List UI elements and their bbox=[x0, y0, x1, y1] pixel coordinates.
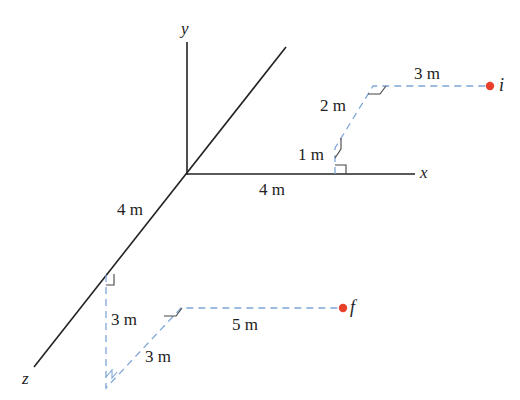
dim-label-3m-y: 3 m bbox=[111, 310, 137, 329]
corner-mark-y-neg-z bbox=[106, 370, 117, 378]
displacement-diagram: y x z i f 4 m 1 m 2 m 3 m 4 m 3 m 3 m 5 … bbox=[0, 0, 520, 400]
initial-point-path bbox=[335, 86, 490, 174]
initial-point-dot bbox=[486, 82, 494, 90]
axes bbox=[34, 42, 415, 367]
x-axis-label: x bbox=[419, 163, 428, 182]
dim-label-5m-x: 5 m bbox=[232, 315, 258, 334]
right-angle-mark-x bbox=[335, 165, 346, 174]
final-point-path bbox=[106, 274, 343, 388]
y-axis-label: y bbox=[179, 19, 189, 38]
corner-mark-y-z bbox=[335, 138, 341, 158]
corner-mark-z-x bbox=[368, 86, 386, 94]
dim-label-1m-y: 1 m bbox=[298, 145, 324, 164]
corner-mark-z-y bbox=[106, 274, 114, 285]
path-to-i bbox=[335, 86, 490, 174]
z-axis-label: z bbox=[21, 369, 29, 388]
final-point-dot bbox=[339, 304, 347, 312]
dim-label-3m-x: 3 m bbox=[414, 64, 440, 83]
path-to-f bbox=[106, 275, 343, 388]
initial-point-label: i bbox=[499, 75, 504, 95]
dim-label-2m-z: 2 m bbox=[320, 96, 346, 115]
dim-label-4m-z: 4 m bbox=[117, 200, 143, 219]
dim-label-4m-x: 4 m bbox=[259, 180, 285, 199]
final-point-label: f bbox=[350, 297, 358, 317]
dim-label-3m-neg-z: 3 m bbox=[145, 347, 171, 366]
